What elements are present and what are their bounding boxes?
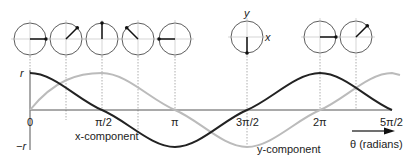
phasor-90 [83, 20, 121, 58]
phasor-270 [228, 18, 266, 56]
x-component-label: x-component [75, 130, 139, 142]
phasor-circles [11, 18, 375, 58]
tick-0: 0 [27, 116, 33, 128]
y-component-label: y-component [257, 143, 321, 155]
tick-pi: π [171, 116, 179, 128]
arrow-right-icon [384, 128, 395, 135]
phasor-0 [11, 20, 49, 58]
r-bottom-label: −r [16, 140, 27, 152]
tick-5pi-half: 5π/2 [380, 116, 403, 128]
circle-x-label: x [264, 31, 271, 43]
r-top-label: r [20, 67, 25, 79]
phasor-180 [156, 20, 194, 58]
tick-3pi-half: 3π/2 [236, 116, 259, 128]
phasor-135 [119, 20, 157, 58]
sine-cosine-diagram: y x r −r 0 π/2 π 3π/2 2π 5π/2 x-componen… [0, 0, 411, 161]
theta-label: θ (radians) [350, 138, 403, 150]
phasor-45 [47, 20, 85, 58]
tick-2pi: 2π [313, 116, 327, 128]
tick-pi-half: π/2 [95, 116, 112, 128]
circle-y-label: y [243, 7, 251, 19]
phasor-405 [337, 18, 375, 56]
phasor-360 [301, 18, 339, 56]
